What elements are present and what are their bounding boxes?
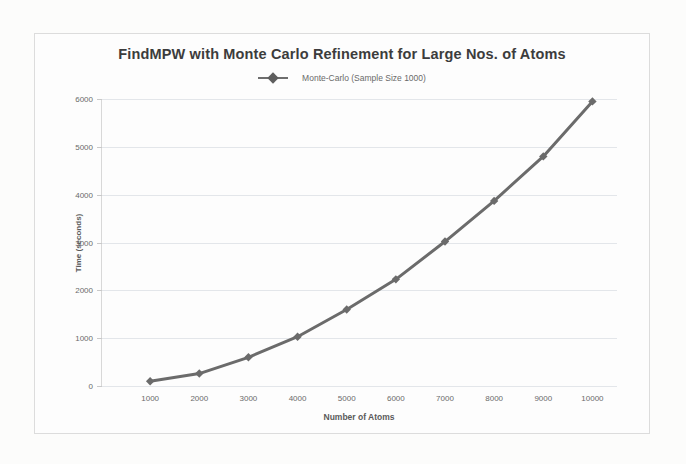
x-tick-label: 4000 xyxy=(289,394,307,403)
y-tick-label: 2000 xyxy=(75,286,93,295)
y-tick-mark xyxy=(97,386,102,387)
data-point-marker xyxy=(244,353,252,361)
x-tick-label: 6000 xyxy=(387,394,405,403)
y-tick-label: 0 xyxy=(89,382,93,391)
legend-marker-icon xyxy=(258,73,288,83)
plot-area: Time (seconds) 0100020003000400050006000… xyxy=(101,99,617,386)
legend-entry-label: Monte-Carlo (Sample Size 1000) xyxy=(302,73,426,83)
x-tick-label: 5000 xyxy=(338,394,356,403)
chart-legend: Monte-Carlo (Sample Size 1000) xyxy=(35,73,649,83)
x-tick-label: 1000 xyxy=(141,394,159,403)
chart-frame: FindMPW with Monte Carlo Refinement for … xyxy=(34,33,650,434)
x-axis-title: Number of Atoms xyxy=(101,412,617,422)
x-tick-label: 2000 xyxy=(190,394,208,403)
data-point-marker xyxy=(195,369,203,377)
y-tick-label: 1000 xyxy=(75,334,93,343)
y-tick-label: 4000 xyxy=(75,190,93,199)
y-tick-label: 3000 xyxy=(75,238,93,247)
data-series-line xyxy=(101,99,617,386)
data-point-marker xyxy=(146,377,154,385)
y-tick-label: 5000 xyxy=(75,142,93,151)
x-tick-label: 9000 xyxy=(534,394,552,403)
x-tick-label: 8000 xyxy=(485,394,503,403)
gridline xyxy=(101,386,617,387)
x-tick-label: 7000 xyxy=(436,394,454,403)
y-tick-label: 6000 xyxy=(75,95,93,104)
x-tick-label: 3000 xyxy=(240,394,258,403)
chart-title: FindMPW with Monte Carlo Refinement for … xyxy=(35,46,649,62)
x-tick-label: 10000 xyxy=(581,394,603,403)
